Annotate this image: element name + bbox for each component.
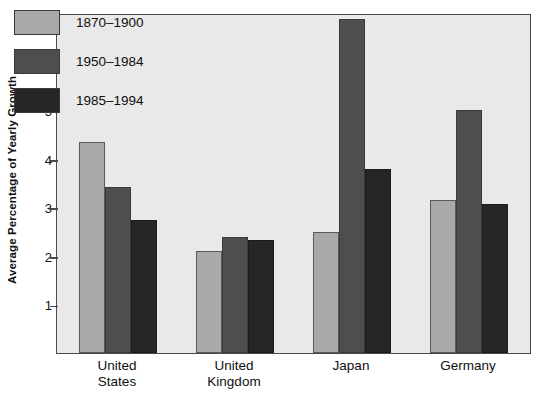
x-axis-category-labels: United StatesUnited KingdomJapanGermany <box>56 358 531 398</box>
bar <box>105 187 131 353</box>
bar <box>482 204 508 353</box>
x-axis-category-label: United Kingdom <box>207 358 260 390</box>
legend-item: 1870–1900 <box>14 6 144 38</box>
legend-item-label: 1950–1984 <box>76 54 144 69</box>
bar <box>196 251 222 353</box>
legend-color-swatch <box>14 88 60 113</box>
bar <box>248 240 274 353</box>
x-axis-category-label: United States <box>97 358 136 390</box>
chart-legend: 1870–19001950–19841985–1994 <box>14 6 144 123</box>
bar <box>339 19 365 353</box>
bar <box>131 220 157 353</box>
bar <box>456 110 482 353</box>
bar <box>222 237 248 353</box>
y-axis-tick-mark <box>50 208 58 210</box>
bar <box>365 169 391 353</box>
legend-item-label: 1870–1900 <box>76 15 144 30</box>
x-axis-category-label: Germany <box>440 358 496 374</box>
bar <box>79 142 105 353</box>
y-axis-tick-mark <box>50 160 58 162</box>
x-axis-category-label: Japan <box>333 358 370 374</box>
legend-item-label: 1985–1994 <box>76 93 144 108</box>
bar <box>313 232 339 353</box>
legend-color-swatch <box>14 10 60 35</box>
legend-item: 1950–1984 <box>14 45 144 77</box>
y-axis-tick-mark <box>50 306 58 308</box>
legend-color-swatch <box>14 49 60 74</box>
y-axis-tick-label: 3 <box>30 201 52 216</box>
y-axis-tick-mark <box>50 257 58 259</box>
y-axis-tick-label: 1 <box>30 298 52 313</box>
chart-figure: Average Percentage of Yearly Growth 1234… <box>0 0 538 398</box>
y-axis-tick-label: 4 <box>30 152 52 167</box>
bar <box>430 200 456 353</box>
y-axis-tick-label: 2 <box>30 249 52 264</box>
legend-item: 1985–1994 <box>14 84 144 116</box>
